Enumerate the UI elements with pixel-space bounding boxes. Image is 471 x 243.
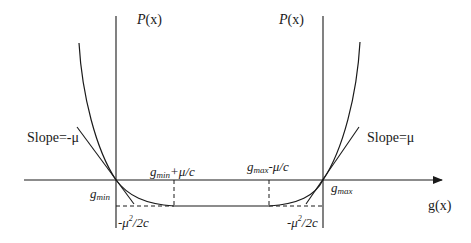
g-max-minus-label: gmax-μ/c bbox=[247, 159, 289, 175]
g-min-label: gmin bbox=[90, 186, 111, 202]
g-axis-label: g(x) bbox=[428, 198, 452, 214]
slope-left-label: Slope=-μ bbox=[27, 130, 79, 145]
slope-right-label: Slope=μ bbox=[367, 130, 414, 145]
left-axis-label: P(x) bbox=[136, 12, 162, 28]
penalty-curve-right bbox=[269, 42, 360, 206]
penalty-curve-left bbox=[79, 43, 174, 206]
g-min-plus-label: gmin+μ/c bbox=[150, 164, 195, 180]
min-value-left-label: -μ2/2c bbox=[118, 214, 149, 230]
penalty-function-diagram: P(x) P(x) g(x) Slope=-μ Slope=μ gmin gma… bbox=[0, 0, 471, 243]
right-axis-label: P(x) bbox=[278, 12, 304, 28]
min-value-right-label: -μ2/2c bbox=[287, 214, 318, 230]
g-max-label: gmax bbox=[331, 180, 353, 196]
